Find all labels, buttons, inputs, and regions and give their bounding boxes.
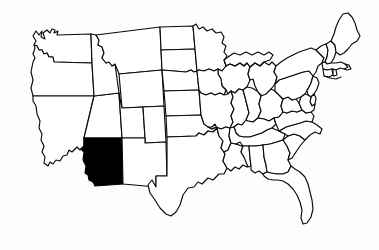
state-missouri[interactable] [199,90,234,129]
state-nebraska[interactable] [162,70,199,91]
state-arizona[interactable] [81,138,123,186]
state-kansas[interactable] [164,90,201,116]
state-maine[interactable] [331,13,360,55]
us-map-figure [0,0,379,250]
state-north-dakota[interactable] [160,26,195,50]
state-south-dakota[interactable] [161,49,197,72]
state-wyoming[interactable] [119,70,164,108]
state-minnesota[interactable] [193,24,227,71]
united-states-map [0,0,379,250]
state-colorado[interactable] [143,106,166,143]
state-florida[interactable] [263,166,313,224]
state-rhode-island[interactable] [333,69,337,76]
long-island-coastline [324,76,341,79]
